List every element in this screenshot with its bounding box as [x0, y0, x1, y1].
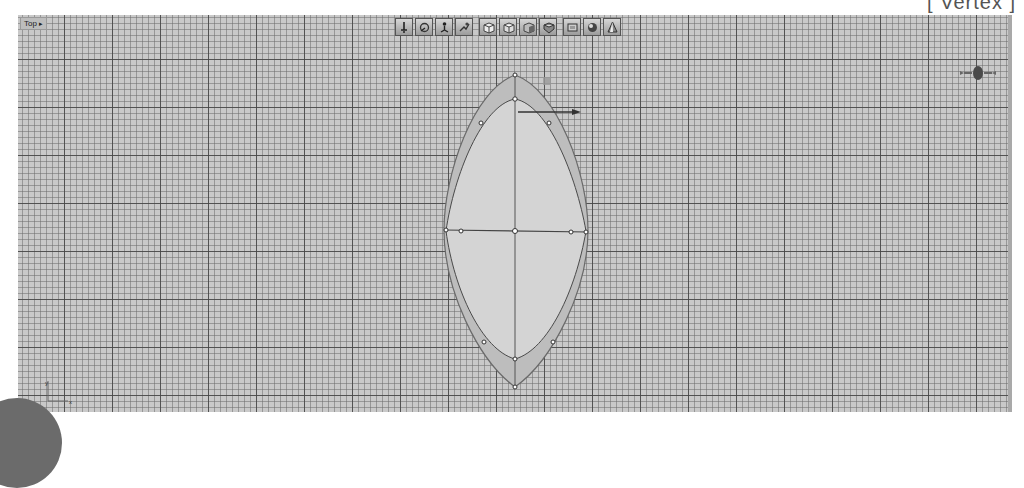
axis-y-label: y: [45, 380, 48, 386]
axis-tripod-icon: y x: [38, 377, 78, 407]
viewport-top[interactable]: Top▸: [18, 15, 1012, 412]
surface-model[interactable]: [18, 15, 1012, 412]
sub-object-mode-label: [ Vertex ]: [927, 0, 1016, 14]
axis-x-label: x: [69, 399, 72, 405]
gizmo-plane-handle-icon[interactable]: [543, 77, 551, 85]
